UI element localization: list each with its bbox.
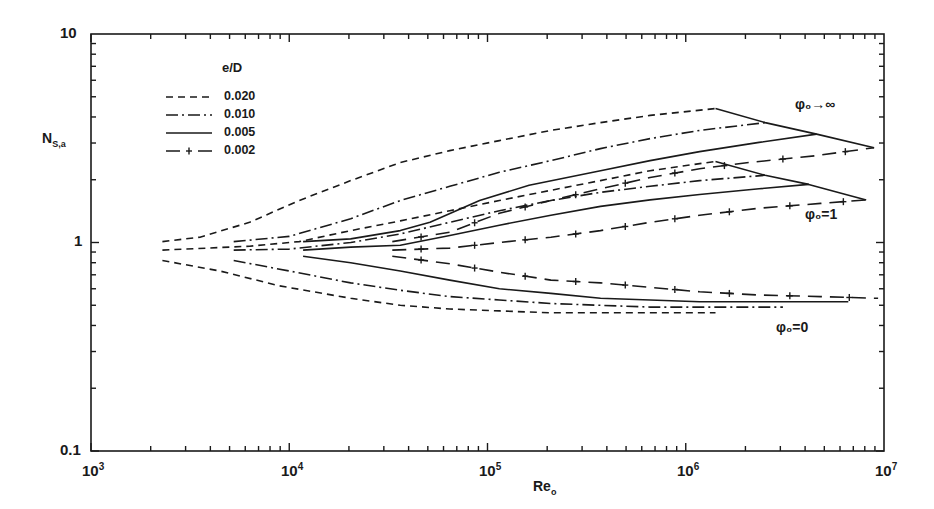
legend-title: e/D bbox=[222, 60, 242, 75]
x-tick-1e5: 105 bbox=[479, 461, 501, 479]
y-tick-10: 10 bbox=[60, 24, 77, 41]
curve bbox=[716, 161, 867, 200]
annotation-phi-one: φ₀=1 bbox=[805, 206, 837, 222]
curve bbox=[392, 148, 874, 242]
legend-swatches bbox=[166, 97, 212, 155]
y-tick-1: 1 bbox=[74, 232, 82, 249]
chart-canvas bbox=[0, 0, 934, 509]
legend-label: 0.002 bbox=[224, 143, 255, 157]
legend-label: 0.005 bbox=[224, 125, 255, 139]
x-tick-1e6: 106 bbox=[677, 461, 699, 479]
annotation-phi-zero: φ₀=0 bbox=[776, 319, 808, 335]
axis-ticks bbox=[91, 34, 884, 451]
curve bbox=[162, 261, 715, 313]
curve bbox=[392, 256, 878, 298]
x-tick-1e4: 104 bbox=[281, 461, 303, 479]
curve bbox=[303, 184, 809, 250]
x-tick-1e3: 103 bbox=[82, 461, 104, 479]
legend-label: 0.020 bbox=[224, 89, 255, 103]
y-tick-0-1: 0.1 bbox=[60, 441, 81, 458]
curve bbox=[234, 261, 783, 308]
x-tick-1e7: 107 bbox=[875, 461, 897, 479]
x-axis-title: Reo bbox=[533, 478, 556, 497]
legend-label: 0.010 bbox=[224, 107, 255, 121]
curve bbox=[716, 109, 875, 148]
annotation-phi-infinity: φ₀→∞ bbox=[795, 96, 835, 112]
curves bbox=[162, 109, 878, 313]
plot-frame bbox=[91, 34, 884, 451]
curve bbox=[162, 161, 715, 250]
y-axis-title: NS,a bbox=[42, 130, 66, 149]
